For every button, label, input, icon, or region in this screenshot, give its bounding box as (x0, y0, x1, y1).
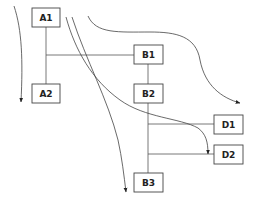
node-b2-label: B2 (142, 89, 155, 99)
node-b3[interactable]: B3 (134, 173, 163, 192)
node-a2-label: A2 (39, 89, 52, 99)
top-right-flow-arrow (88, 16, 240, 103)
node-b2[interactable]: B2 (134, 84, 163, 103)
node-d2[interactable]: D2 (214, 145, 243, 164)
node-d1[interactable]: D1 (214, 115, 243, 134)
node-b1[interactable]: B1 (134, 45, 163, 64)
node-b1-label: B1 (142, 50, 155, 60)
left-down-flow-arrow (14, 6, 22, 102)
node-b3-label: B3 (142, 178, 155, 188)
node-d1-label: D1 (222, 120, 236, 130)
center-to-b3-flow-arrow (72, 17, 126, 192)
node-a1-label: A1 (39, 13, 52, 23)
node-a1[interactable]: A1 (32, 8, 60, 27)
connector-lines (46, 27, 214, 173)
flow-diagram: A1 A2 B1 B2 D1 D2 B3 (0, 0, 258, 206)
node-d2-label: D2 (222, 150, 236, 160)
node-a2[interactable]: A2 (32, 84, 60, 103)
